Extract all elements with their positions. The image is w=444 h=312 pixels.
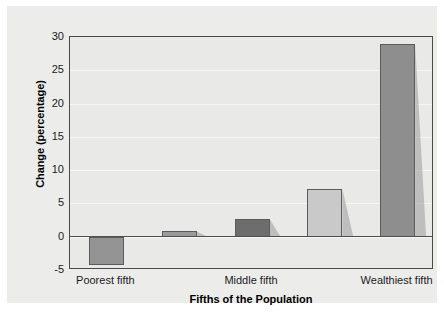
y-tick-label: 25 <box>10 64 64 75</box>
gridline <box>70 203 432 204</box>
bar <box>307 189 342 237</box>
y-axis-tick-labels: 302520151050-5 <box>7 36 64 269</box>
chart-panel: Change (percentage) 302520151050-5 Poore… <box>7 6 437 303</box>
x-tick-label: Poorest fifth <box>45 274 165 286</box>
y-tick-label: 20 <box>10 98 64 109</box>
bar-shadow <box>415 44 426 237</box>
x-axis-tick-labels: Poorest fifthMiddle fifthWealthiest fift… <box>69 274 433 290</box>
gridline <box>70 137 432 138</box>
x-tick-label: Wealthiest fifth <box>337 274 444 286</box>
gridline <box>70 170 432 171</box>
y-tick-label: 5 <box>10 197 64 208</box>
bar-shadow <box>270 219 281 237</box>
y-tick-label: 15 <box>10 131 64 142</box>
bar <box>380 44 415 237</box>
gridline <box>70 104 432 105</box>
chart-root: Change (percentage) 302520151050-5 Poore… <box>0 0 444 312</box>
plot-area <box>69 36 433 269</box>
zero-baseline <box>70 236 432 238</box>
bar <box>89 237 124 265</box>
bar <box>235 219 270 237</box>
x-axis-title: Fifths of the Population <box>69 293 433 305</box>
y-tick-label: 0 <box>10 231 64 242</box>
gridline <box>70 70 432 71</box>
bar-shadow <box>342 189 353 237</box>
x-tick-label: Middle fifth <box>191 274 311 286</box>
y-tick-label: 10 <box>10 164 64 175</box>
y-tick-label: 30 <box>10 31 64 42</box>
